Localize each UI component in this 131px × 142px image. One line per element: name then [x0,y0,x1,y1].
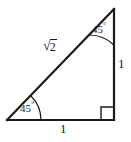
right-angle-marker-icon [101,107,113,119]
angle-top-right-value: 45 [92,23,103,35]
right-leg-label: 1 [118,57,125,70]
angle-label-top-right: 45° [92,22,106,35]
angle-label-bottom-left: 45° [20,101,34,114]
hypotenuse-label: √2 [43,38,57,53]
angle-arc-top-right-icon [88,35,114,45]
radicand-value: 2 [50,39,57,53]
degree-symbol-icon: ° [103,21,106,30]
angle-bottom-left-value: 45 [20,102,31,114]
bottom-leg-label: 1 [60,122,67,135]
degree-symbol-icon: ° [31,100,34,109]
geometry-figure: √2 1 1 45° 45° [0,0,131,142]
radical-group: √2 [43,38,57,53]
